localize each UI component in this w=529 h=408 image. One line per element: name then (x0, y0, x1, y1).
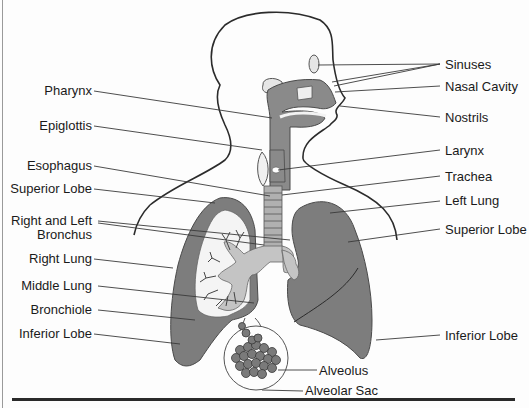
label-nostrils: Nostrils (445, 110, 488, 125)
label-epiglottis: Epiglottis (10, 118, 92, 133)
label-middle-lung: Middle Lung (4, 278, 92, 293)
larynx-shape (270, 150, 285, 182)
label-pharynx: Pharynx (20, 83, 92, 98)
frontal-sinus (309, 55, 319, 73)
label-bronchiole: Bronchiole (4, 302, 92, 317)
left-lung-shape (288, 202, 373, 359)
label-sinuses: Sinuses (445, 57, 491, 72)
label-inferior-lobe-right: Inferior Lobe (4, 326, 92, 341)
label-bronchus-line2: Bronchus (4, 227, 92, 242)
label-bronchus-line1: Right and Left (4, 213, 92, 228)
right-shoulder-outline (134, 205, 150, 235)
label-superior-lobe-right: Superior Lobe (4, 181, 92, 196)
label-esophagus: Esophagus (10, 158, 92, 173)
label-trachea: Trachea (445, 169, 492, 184)
label-alveolar-sac: Alveolar Sac (305, 383, 378, 398)
label-inferior-lobe-left: Inferior Lobe (445, 328, 518, 343)
epiglottis-shape (258, 152, 269, 186)
label-alveolus: Alveolus (319, 363, 368, 378)
label-superior-lobe-left: Superior Lobe (445, 222, 527, 237)
label-nasal-cavity: Nasal Cavity (445, 79, 518, 94)
label-left-lung: Left Lung (445, 193, 499, 208)
nasal-concha (297, 86, 312, 100)
label-right-lung: Right Lung (4, 251, 92, 266)
bottom-divider-line (12, 398, 515, 401)
respiratory-system-diagram: Pharynx Epiglottis Esophagus Superior Lo… (0, 0, 529, 408)
label-larynx: Larynx (445, 143, 484, 158)
